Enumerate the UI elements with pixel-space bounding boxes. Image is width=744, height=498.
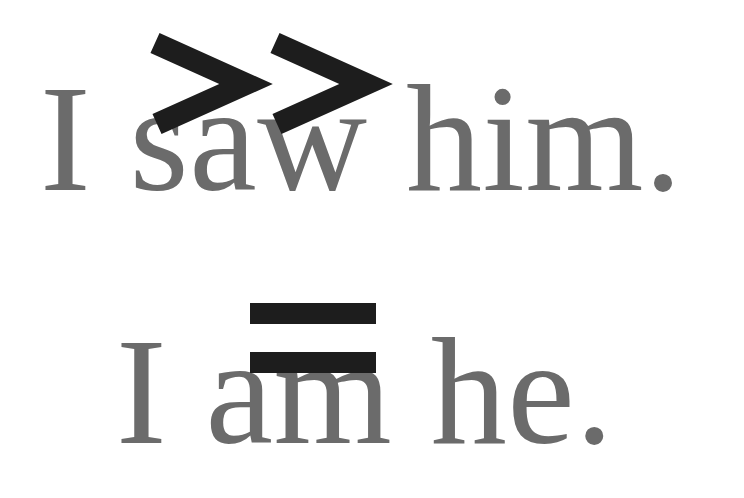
sentence-line-2: I am he.	[116, 316, 614, 468]
figure-caption: I saw him. I am he.	[0, 0, 1, 1]
sentence-line-1: I saw him.	[40, 63, 682, 215]
illustration-canvas: I saw him. I am he. I saw him. I am he.	[0, 0, 744, 498]
